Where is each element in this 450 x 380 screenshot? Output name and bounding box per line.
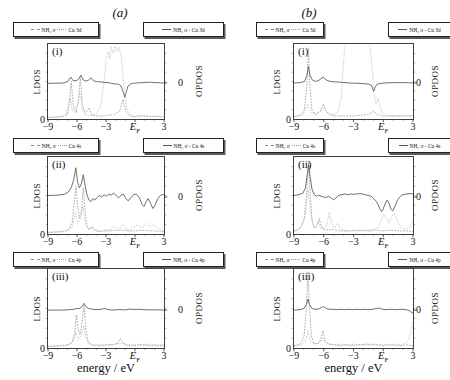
xtick-label: −3 [348,236,359,247]
legend-label: Cu 3d [302,26,315,32]
xtick-label: −6 [72,121,83,132]
ldos-axis-label: LDOS [32,157,42,234]
xtick-label: 3 [162,236,167,247]
ldos-axis-label: LDOS [32,269,42,348]
ef-sub: F [136,356,140,364]
ef-sub: F [136,242,140,250]
xtick-label: −3 [101,350,112,361]
legend-label: Cu 3d [68,26,81,32]
xtick-label: −9 [43,236,54,247]
cu-orbital-line-sample [57,29,66,30]
plot-area: (ii) 0 0 −9 −6 −3 EF 3 LDOS OPDOS [47,156,165,235]
curves-canvas [294,44,413,119]
legend-label: NH₃ σ [42,26,56,32]
xtick-label: 3 [411,121,416,132]
ldos-legend: NH₃ σ Cu 4p [13,252,99,267]
xtick-label: −9 [289,236,300,247]
ef-sub: F [136,127,140,135]
opdos-axis-label: OPDOS [430,44,440,119]
cu-orbital-line-sample [291,29,300,30]
opdos-axis-label: OPDOS [194,269,204,348]
xtick-label: −6 [318,350,329,361]
plot-area: (i) 0 0 −9 −6 −3 EF 3 LDOS OPDOS [47,43,165,120]
nh3-sigma-line-sample [31,259,40,260]
column-a-title: (a) [95,5,145,21]
curves-canvas [48,44,164,119]
panel-b-ii: NH₃ σ Cu 4s NH₃ σ - Cu 4s (ii) 0 0 −9 −6… [225,138,450,252]
legend-label: NH₃ σ [42,142,56,148]
fermi-level-label: EF [378,121,388,135]
opdos-zero-label: 0 [416,304,421,315]
ldos-legend: NH₃ σ Cu 3d [13,22,99,37]
opdos-zero-label: 0 [178,191,183,202]
xtick-label: −9 [43,350,54,361]
legend-label: NH₃ σ [42,256,56,262]
ldos-axis-label: LDOS [272,269,282,348]
ldos-axis-label: LDOS [32,44,42,119]
opdos-line-sample [163,145,172,146]
panel-a-i: NH₃ σ Cu 3d NH₃ σ - Cu 3d (i) 0 0 −9 −6 … [0,22,225,136]
nh3-sigma-line-sample [265,29,274,30]
panel-a-ii: NH₃ σ Cu 4s NH₃ σ - Cu 4s (ii) 0 0 −9 −6… [0,138,225,252]
opdos-legend: NH₃ σ - Cu 4s [143,138,224,153]
legend-label: NH₃ σ - Cu 4p [173,256,204,262]
cu-orbital-line-sample [291,259,300,260]
opdos-legend: NH₃ σ - Cu 4p [143,252,224,267]
legend-label: Cu 4p [68,256,81,262]
xtick-label: −6 [72,236,83,247]
xtick-label: −3 [101,121,112,132]
plot-area: (ii) 0 0 −9 −6 −3 EF 3 LDOS OPDOS [293,156,414,235]
panel-b-iii: NH₃ σ Cu 4p NH₃ σ - Cu 4p (iii) 0 0 −9 −… [225,252,450,366]
opdos-legend: NH₃ σ - Cu 4s [388,138,450,153]
xtick-label: −6 [318,236,329,247]
legend-label: Cu 4s [69,142,81,148]
curves-canvas [48,157,164,234]
legend-label: Cu 4p [302,256,315,262]
legend-label: NH₃ σ - Cu 4s [410,142,441,148]
nh3-sigma-line-sample [31,29,40,30]
cu-orbital-line-sample [57,259,66,260]
legend-label: NH₃ σ - Cu 3d [409,26,440,32]
xtick-label: −9 [289,350,300,361]
opdos-line-sample [399,145,408,146]
opdos-axis-label: OPDOS [194,157,204,234]
fermi-level-label: EF [378,236,388,250]
opdos-zero-label: 0 [416,77,421,88]
ef-sub: F [385,242,389,250]
plot-area: (iii) 0 0 −9 −6 −3 EF 3 LDOS OPDOS energ… [47,268,165,349]
legend-label: NH₃ σ [276,256,290,262]
ldos-legend: NH₃ σ Cu 4p [256,252,324,267]
xtick-label: −6 [72,350,83,361]
opdos-axis-label: OPDOS [194,44,204,119]
opdos-line-sample [162,29,171,30]
xtick-label: 3 [411,350,416,361]
xtick-label: −9 [289,121,300,132]
ldos-legend: NH₃ σ Cu 4s [256,138,324,153]
column-b-title: (b) [284,5,334,21]
opdos-axis-label: OPDOS [430,269,440,348]
opdos-legend: NH₃ σ - Cu 4p [388,252,450,267]
xtick-label: −6 [318,121,329,132]
legend-label: NH₃ σ - Cu 4p [409,256,440,262]
curves-canvas [294,157,413,234]
fermi-level-label: EF [130,121,140,135]
xtick-label: 3 [162,121,167,132]
nh3-sigma-line-sample [265,259,274,260]
legend-label: NH₃ σ - Cu 3d [173,26,204,32]
curves-canvas [294,269,413,348]
xtick-label: −3 [348,121,359,132]
xtick-label: −3 [348,350,359,361]
nh3-sigma-line-sample [31,145,40,146]
panel-a-iii: NH₃ σ Cu 4p NH₃ σ - Cu 4p (iii) 0 0 −9 −… [0,252,225,366]
figure: (a) (b) NH₃ σ Cu 3d NH₃ σ - Cu 3d (i) 0 … [0,0,450,380]
legend-label: Cu 4s [303,142,315,148]
plot-area: (i) 0 0 −9 −6 −3 EF 3 LDOS OPDOS [293,43,414,120]
plot-area: (iii) 0 0 −9 −6 −3 EF 3 LDOS OPDOS energ… [293,268,414,349]
cu-orbital-line-sample [58,145,67,146]
opdos-line-sample [398,259,407,260]
opdos-legend: NH₃ σ - Cu 3d [388,22,450,37]
fermi-level-label: EF [130,236,140,250]
panel-b-i: NH₃ σ Cu 3d NH₃ σ - Cu 3d (i) 0 0 −9 −6 … [225,22,450,136]
opdos-line-sample [162,259,171,260]
nh3-sigma-line-sample [265,145,274,146]
